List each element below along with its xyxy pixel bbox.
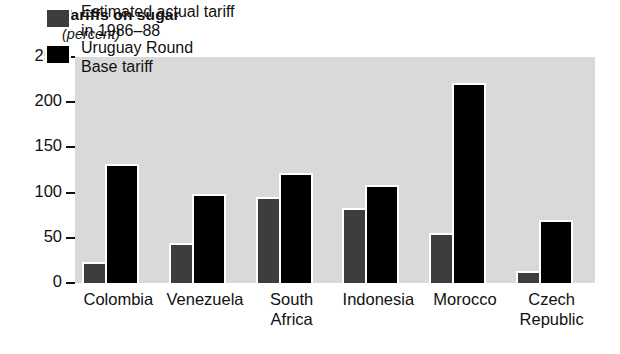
x-axis-label-indonesia: Indonesia — [335, 289, 422, 309]
x-axis-label-czech-republic: Czech Republic — [508, 289, 595, 329]
legend-swatch-icon-series-1 — [45, 44, 71, 65]
legend-swatch-icon-series-0 — [45, 8, 71, 29]
y-axis-tick-mark — [66, 101, 75, 103]
legend-label-series-0-line1: Estimated actual tariff — [81, 3, 235, 20]
legend-label-series-0-line2: in 1986–88 — [81, 22, 160, 39]
y-axis-tick-label: 50 — [44, 227, 62, 246]
bar-czech-republic-series-1[interactable] — [539, 220, 573, 283]
y-axis-tick-label: 200 — [34, 91, 62, 110]
legend-label-series-0: Estimated actual tariffin 1986–88 — [81, 3, 235, 40]
legend-label-series-1-line1: Uruguay Round — [81, 39, 193, 56]
y-axis-tick-mark — [66, 237, 75, 239]
y-axis-tick-label: 150 — [34, 136, 62, 155]
bar-indonesia-series-1[interactable] — [365, 185, 399, 283]
x-axis-label-venezuela: Venezuela — [162, 289, 249, 309]
y-axis-tick-mark — [66, 192, 75, 194]
x-axis-label-colombia: Colombia — [75, 289, 162, 309]
x-axis-label-morocco: Morocco — [422, 289, 509, 309]
x-axis-label-south-africa: South Africa — [248, 289, 335, 329]
bar-morocco-series-1[interactable] — [452, 83, 486, 283]
y-axis: 050100150200250 — [0, 57, 75, 283]
y-axis-tick-label: 0 — [53, 272, 62, 291]
bar-venezuela-series-1[interactable] — [192, 194, 226, 283]
y-axis-tick-mark — [66, 146, 75, 148]
bar-south-africa-series-1[interactable] — [279, 173, 313, 283]
y-axis-tick-label: 100 — [34, 182, 62, 201]
bar-colombia-series-1[interactable] — [105, 164, 139, 283]
legend-label-series-1-line2: Base tariff — [81, 58, 153, 75]
y-axis-tick-mark — [66, 282, 75, 284]
legend-label-series-1: Uruguay RoundBase tariff — [81, 39, 193, 76]
chart-plot-area — [75, 57, 595, 283]
x-axis-labels: ColombiaVenezuelaSouth AfricaIndonesiaMo… — [75, 289, 595, 349]
